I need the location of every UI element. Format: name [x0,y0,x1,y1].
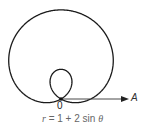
arrow-head-icon [121,96,129,102]
origin-label: 0 [57,100,63,111]
limacon-curve [9,10,114,103]
equation-body: = 1 + 2 sin [46,113,98,124]
equation-caption: r = 1 + 2 sin θ [0,113,145,124]
axis-label-a: A [131,92,138,103]
equation-theta: θ [98,113,103,124]
